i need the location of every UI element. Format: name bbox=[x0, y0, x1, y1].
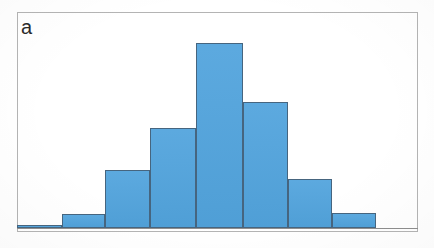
x-axis-line bbox=[17, 228, 418, 229]
figure-root: a bbox=[0, 0, 434, 248]
plot-area bbox=[17, 12, 418, 232]
histogram-bar bbox=[105, 170, 150, 228]
histogram-bar bbox=[17, 225, 62, 228]
histogram-bar bbox=[243, 102, 288, 228]
histogram-bar bbox=[150, 128, 196, 228]
histogram-bar bbox=[332, 213, 376, 228]
histogram-bar bbox=[62, 214, 105, 228]
histogram-bar bbox=[196, 43, 243, 228]
histogram-bar bbox=[288, 179, 332, 228]
histogram-bars bbox=[17, 28, 418, 228]
